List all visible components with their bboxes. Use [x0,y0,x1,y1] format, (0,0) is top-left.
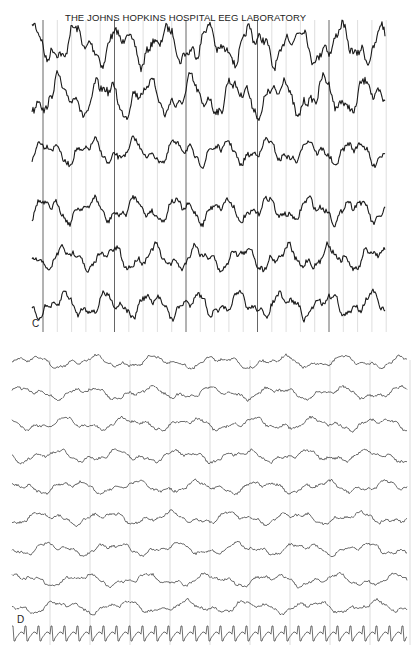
panel-c-label: C [32,318,39,329]
eeg-figure [0,0,415,656]
panel-d-traces [12,354,407,641]
panel-d-label: D [17,614,24,625]
figure-title: THE JOHNS HOPKINS HOSPITAL EEG LABORATOR… [65,12,306,23]
panel-c-gridlines [43,20,386,332]
panel-c-traces [32,20,385,322]
panel-d-gridlines [50,360,410,645]
